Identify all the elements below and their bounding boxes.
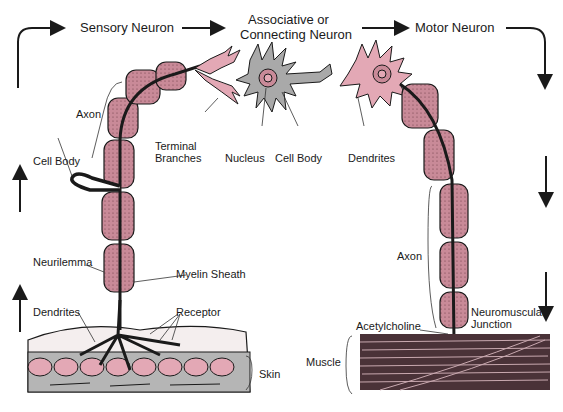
arrow-top-right-icon <box>506 28 545 86</box>
skin-layer <box>28 326 250 392</box>
label-cell-body-left: Cell Body <box>33 155 80 168</box>
muscle-tissue <box>360 334 550 390</box>
title-motor-neuron: Motor Neuron <box>415 20 494 35</box>
label-cell-body-center: Cell Body <box>275 152 322 165</box>
label-neurilemma: Neurilemma <box>33 256 92 269</box>
title-associative-neuron-line1: Associative or <box>248 12 329 27</box>
title-sensory-neuron: Sensory Neuron <box>80 20 174 35</box>
label-axon-left: Axon <box>76 108 101 121</box>
sensory-myelin <box>102 62 186 292</box>
terminal-branches <box>195 46 240 104</box>
neuron-pathway-diagram <box>0 0 563 412</box>
label-dendrites-bottom: Dendrites <box>33 306 80 319</box>
label-axon-right: Axon <box>397 250 422 263</box>
motor-cell-body <box>340 40 412 108</box>
label-muscle: Muscle <box>306 356 341 369</box>
interneuron <box>236 42 332 112</box>
label-nucleus: Nucleus <box>225 152 265 165</box>
arrow-top-left-icon <box>18 28 62 88</box>
label-terminal-branches-2: Branches <box>155 152 201 165</box>
label-neuromuscular-junction-2: Junction <box>471 318 512 331</box>
label-receptor: Receptor <box>176 306 221 319</box>
label-acetylcholine: Acetylcholine <box>356 320 421 333</box>
label-myelin-sheath: Myelin Sheath <box>176 268 246 281</box>
motor-myelin <box>402 84 468 328</box>
label-skin: Skin <box>259 368 280 381</box>
label-dendrites-top: Dendrites <box>348 152 395 165</box>
title-associative-neuron-line2: Connecting Neuron <box>240 27 352 42</box>
